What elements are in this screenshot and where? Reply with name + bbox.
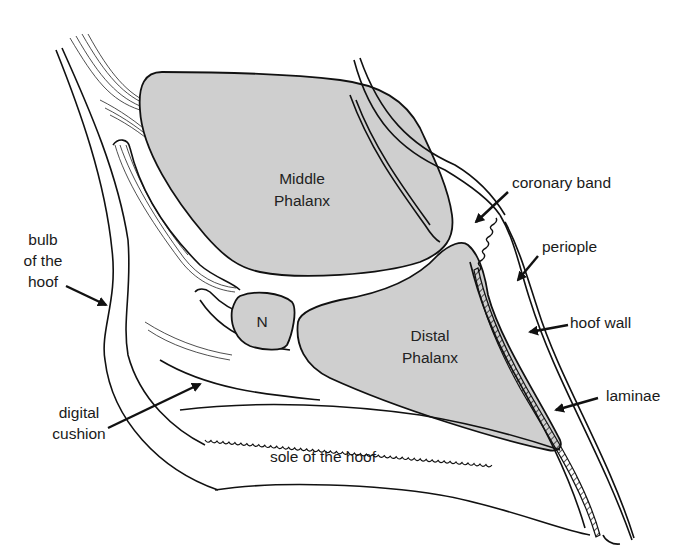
distal-phalanx-label: Distal Phalanx — [390, 325, 470, 369]
arrow-hoof-wall — [530, 325, 568, 332]
hoof-wall-label: hoof wall — [570, 312, 631, 333]
distal-phalanx-label-line2: Phalanx — [390, 347, 470, 369]
digital-cushion-label-line2: cushion — [44, 423, 114, 444]
hoof-illustration — [0, 0, 698, 560]
middle-phalanx-label-line1: Middle — [262, 168, 342, 190]
hoof-diagram: Middle Phalanx Distal Phalanx N bulb of … — [0, 0, 698, 560]
bulb-label-line2: of the — [14, 250, 72, 271]
digital-cushion-label: digital cushion — [44, 402, 114, 444]
sole-label: sole of the hoof — [270, 446, 376, 467]
laminae-label: laminae — [606, 385, 660, 406]
arrow-laminae — [556, 398, 598, 410]
coronary-band-label: coronary band — [512, 172, 611, 193]
periople-label: periople — [542, 236, 597, 257]
bulb-label-line1: bulb — [14, 229, 72, 250]
digital-cushion-label-line1: digital — [44, 402, 114, 423]
arrow-bulb — [66, 286, 106, 305]
bulb-label-line3: hoof — [14, 271, 72, 292]
bulb-of-hoof-label: bulb of the hoof — [14, 229, 72, 292]
navicular-label: N — [252, 311, 272, 333]
middle-phalanx-label-line2: Phalanx — [262, 190, 342, 212]
middle-phalanx-label: Middle Phalanx — [262, 168, 342, 212]
arrow-digital-cushion — [108, 384, 200, 428]
distal-phalanx-label-line1: Distal — [390, 325, 470, 347]
